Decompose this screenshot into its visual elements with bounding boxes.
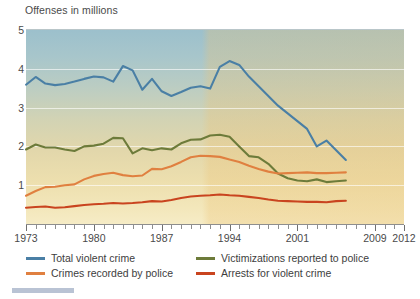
x-tick-minor	[133, 225, 134, 229]
legend-row: Crimes recorded by police Arrests for vi…	[26, 267, 416, 280]
legend-item-total-violent-crime: Total violent crime	[26, 252, 196, 265]
x-tick-minor	[181, 225, 182, 229]
x-axis-line	[26, 224, 404, 225]
x-tick-minor	[365, 225, 366, 229]
series-line	[26, 61, 346, 160]
plot-area	[26, 30, 404, 224]
y-tick-label: 5	[8, 24, 24, 36]
legend-swatch-icon	[196, 272, 215, 274]
x-tick-minor	[84, 225, 85, 229]
x-tick-label: 1980	[82, 232, 105, 244]
legend-item-arrests-for-violent-crime: Arrests for violent crime	[196, 267, 331, 280]
series-lines	[26, 30, 404, 224]
x-tick-minor	[210, 225, 211, 229]
x-tick-major	[230, 225, 231, 231]
chart-legend: Total violent crime Victimizations repor…	[26, 252, 416, 282]
x-tick-label: 2001	[286, 232, 309, 244]
x-tick-minor	[239, 225, 240, 229]
legend-swatch-icon	[26, 257, 45, 259]
x-tick-minor	[220, 225, 221, 229]
legend-label: Total violent crime	[51, 252, 135, 265]
x-tick-minor	[288, 225, 289, 229]
x-tick-minor	[346, 225, 347, 229]
x-tick-label: 1987	[150, 232, 173, 244]
x-tick-minor	[123, 225, 124, 229]
x-tick-minor	[36, 225, 37, 229]
x-tick-minor	[74, 225, 75, 229]
series-line	[26, 156, 346, 196]
x-tick-minor	[200, 225, 201, 229]
x-tick-minor	[317, 225, 318, 229]
legend-row: Total violent crime Victimizations repor…	[26, 252, 416, 265]
y-tick-label: 1	[8, 179, 24, 191]
x-tick-minor	[394, 225, 395, 229]
legend-swatch-icon	[196, 257, 215, 259]
x-tick-minor	[278, 225, 279, 229]
y-tick-label: 4	[8, 63, 24, 75]
x-tick-minor	[152, 225, 153, 229]
series-line	[26, 195, 346, 208]
x-tick-minor	[142, 225, 143, 229]
x-tick-minor	[104, 225, 105, 229]
x-tick-minor	[326, 225, 327, 229]
x-tick-minor	[356, 225, 357, 229]
x-tick-major	[162, 225, 163, 231]
x-tick-minor	[113, 225, 114, 229]
x-tick-minor	[336, 225, 337, 229]
y-tick-label: 2	[8, 140, 24, 152]
legend-label: Crimes recorded by police	[51, 267, 173, 280]
legend-label: Arrests for violent crime	[221, 267, 331, 280]
x-tick-major	[26, 225, 27, 231]
x-tick-minor	[191, 225, 192, 229]
x-tick-major	[94, 225, 95, 231]
x-tick-minor	[55, 225, 56, 229]
x-tick-minor	[65, 225, 66, 229]
x-tick-minor	[259, 225, 260, 229]
x-tick-minor	[171, 225, 172, 229]
x-tick-major	[375, 225, 376, 231]
legend-item-victimizations-reported-to-police: Victimizations reported to police	[196, 252, 369, 265]
y-tick-label: 3	[8, 102, 24, 114]
violent-crime-line-chart: Offenses in millions 54321 1973198019871…	[0, 0, 420, 299]
footer-accent-bar	[12, 288, 74, 293]
x-tick-minor	[307, 225, 308, 229]
legend-label: Victimizations reported to police	[221, 252, 369, 265]
x-tick-minor	[249, 225, 250, 229]
x-tick-label: 1994	[218, 232, 241, 244]
x-tick-label: 2012	[392, 232, 415, 244]
x-tick-major	[404, 225, 405, 231]
legend-swatch-icon	[26, 272, 45, 274]
x-tick-minor	[385, 225, 386, 229]
legend-item-crimes-recorded-by-police: Crimes recorded by police	[26, 267, 196, 280]
x-tick-minor	[268, 225, 269, 229]
x-tick-label: 2009	[363, 232, 386, 244]
x-tick-minor	[45, 225, 46, 229]
x-tick-label: 1973	[14, 232, 37, 244]
x-tick-major	[297, 225, 298, 231]
